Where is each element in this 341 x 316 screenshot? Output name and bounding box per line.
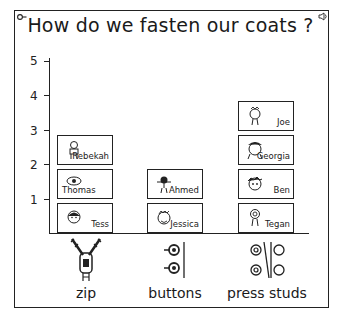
- category-buttons: buttons: [130, 236, 220, 301]
- category-label: zip: [41, 285, 131, 301]
- y-tick-label: 3: [30, 125, 38, 137]
- child-card: Rebekah: [57, 135, 113, 165]
- child-name: Tess: [91, 220, 109, 229]
- chart-title: How do we fasten our coats ?: [0, 14, 341, 36]
- child-name: Joe: [277, 118, 290, 127]
- y-tick: [44, 199, 50, 200]
- child-drawing-icon: [65, 208, 83, 228]
- y-tick-label: 5: [30, 55, 38, 67]
- zip-icon: [41, 236, 131, 284]
- child-name: Jessica: [170, 220, 199, 229]
- y-tick-label: 2: [30, 159, 38, 171]
- y-tick: [44, 164, 50, 165]
- y-tick-label: 1: [30, 194, 38, 206]
- x-axis: [49, 233, 309, 234]
- bar-zip: Tess Thomas Rebekah: [57, 131, 113, 233]
- child-name: Tegan: [265, 220, 290, 229]
- child-name: Ben: [274, 186, 290, 195]
- child-card: Thomas: [57, 169, 113, 199]
- bar-buttons: Jessica Ahmed: [147, 165, 203, 233]
- child-name: Georgia: [257, 152, 290, 161]
- child-card: Ahmed: [147, 169, 203, 199]
- y-axis: [49, 58, 50, 234]
- child-drawing-icon: [246, 208, 264, 228]
- child-card: Jessica: [147, 203, 203, 233]
- child-drawing-icon: [246, 106, 264, 126]
- y-tick: [44, 61, 50, 62]
- press-studs-icon: [222, 236, 312, 284]
- buttons-icon: [130, 236, 220, 284]
- y-tick: [44, 95, 50, 96]
- y-tick-label: 4: [30, 90, 38, 102]
- child-card: Tess: [57, 203, 113, 233]
- child-name: Rebekah: [72, 152, 109, 161]
- category-zip: zip: [41, 236, 131, 301]
- child-drawing-icon: [246, 174, 264, 194]
- category-press-studs: press studs: [222, 236, 312, 301]
- child-card: Joe: [238, 101, 294, 131]
- child-name: Thomas: [62, 186, 96, 195]
- child-card: Georgia: [238, 135, 294, 165]
- child-name: Ahmed: [169, 186, 199, 195]
- child-card: Ben: [238, 169, 294, 199]
- y-tick: [44, 130, 50, 131]
- child-card: Tegan: [238, 203, 294, 233]
- category-label: buttons: [130, 285, 220, 301]
- category-label: press studs: [222, 285, 312, 301]
- bar-press-studs: Tegan Ben Georgia Joe: [238, 97, 294, 233]
